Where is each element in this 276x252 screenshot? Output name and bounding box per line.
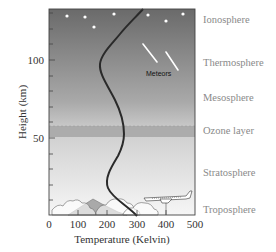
x-tick-300: 300 <box>129 218 146 230</box>
x-tick-100: 100 <box>70 218 87 230</box>
x-tick-0: 0 <box>46 218 52 230</box>
layer-label-ionosphere: Ionosphere <box>203 14 250 25</box>
layer-label-troposphere: Troposphere <box>203 204 256 215</box>
atmosphere-chart: Meteors <box>0 0 276 252</box>
layer-label-thermosphere: Thermosphere <box>203 57 264 68</box>
layer-label-mesosphere: Mesosphere <box>203 92 254 103</box>
ozone-band <box>49 126 195 137</box>
x-tick-200: 200 <box>99 218 116 230</box>
plot-area <box>49 9 195 215</box>
y-tick-50: 50 <box>33 132 45 144</box>
x-axis-title: Temperature (Kelvin) <box>74 233 170 246</box>
y-tick-100: 100 <box>28 54 45 66</box>
meteors-annotation: Meteors <box>146 70 172 77</box>
layer-label-stratosphere: Stratosphere <box>203 167 256 178</box>
x-tick-400: 400 <box>158 218 175 230</box>
y-axis-title: Height (km) <box>16 85 29 139</box>
layer-label-ozone: Ozone layer <box>203 125 255 136</box>
x-tick-500: 500 <box>187 218 204 230</box>
